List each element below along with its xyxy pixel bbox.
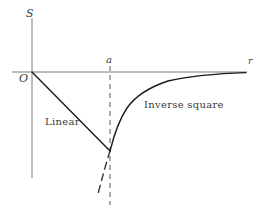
- tick-label-a: a: [106, 55, 112, 65]
- potential-energy-figure: S O a r Linear Inverse square: [0, 0, 260, 209]
- linear-annotation: Linear: [45, 117, 80, 127]
- inverse-square-branch: [110, 73, 246, 151]
- linear-branch: [32, 72, 110, 151]
- origin-label: O: [19, 73, 28, 84]
- vertical-axis-label: S: [26, 8, 34, 19]
- inverse-square-annotation: Inverse square: [144, 100, 224, 110]
- horizontal-axis-label: r: [248, 57, 252, 66]
- dashed-linear-extension: [98, 151, 110, 194]
